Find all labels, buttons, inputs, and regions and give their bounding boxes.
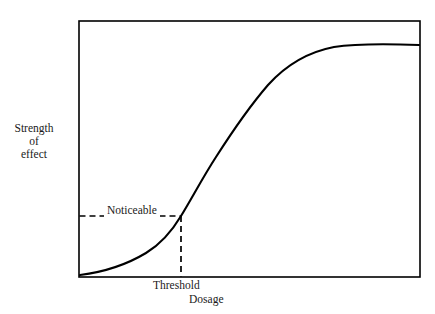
y-axis-label-line-1: Strength [0,122,68,135]
noticeable-annotation-label: Noticeable [104,204,160,217]
plot-frame [79,21,420,277]
x-axis-label: Dosage [189,293,224,306]
y-axis-label: Strength of effect [0,122,68,161]
y-axis-label-line-2: of [0,135,68,148]
y-axis-label-line-3: effect [0,148,68,161]
threshold-annotation-label: Threshold [153,279,200,292]
